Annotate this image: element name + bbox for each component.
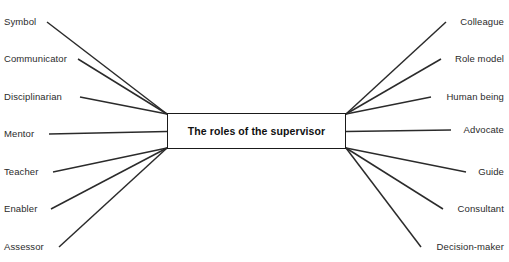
branch-label-symbol[interactable]: Symbol — [4, 16, 36, 27]
spoke-line-role-model — [346, 59, 441, 114]
branch-label-colleague[interactable]: Colleague — [460, 16, 504, 27]
spoke-line-mentor — [49, 132, 167, 135]
branch-label-decision-maker[interactable]: Decision-maker — [437, 241, 504, 252]
branch-label-advocate[interactable]: Advocate — [464, 124, 504, 135]
spoke-line-colleague — [346, 22, 446, 114]
branch-label-mentor[interactable]: Mentor — [4, 128, 34, 139]
branch-label-human-being[interactable]: Human being — [446, 91, 504, 102]
branch-label-assessor[interactable]: Assessor — [4, 241, 44, 252]
spoke-line-symbol — [47, 22, 167, 114]
center-node-box[interactable]: The roles of the supervisor — [167, 113, 346, 149]
branch-label-disciplinarian[interactable]: Disciplinarian — [4, 91, 62, 102]
mind-map-diagram: The roles of the supervisor SymbolCommun… — [0, 0, 509, 262]
right-spokes-group — [346, 22, 466, 247]
branch-label-guide[interactable]: Guide — [478, 166, 504, 177]
spoke-line-decision-maker — [346, 148, 421, 247]
spoke-line-enabler — [51, 148, 167, 209]
spoke-line-human-being — [346, 97, 431, 114]
spoke-line-teacher — [53, 148, 167, 172]
branch-label-enabler[interactable]: Enabler — [4, 203, 37, 214]
spoke-line-advocate — [346, 130, 451, 132]
branch-label-communicator[interactable]: Communicator — [4, 53, 67, 64]
branch-label-role-model[interactable]: Role model — [455, 53, 504, 64]
spoke-line-assessor — [59, 148, 167, 247]
branch-label-consultant[interactable]: Consultant — [458, 203, 504, 214]
center-node-title: The roles of the supervisor — [188, 125, 325, 137]
branch-label-teacher[interactable]: Teacher — [4, 166, 39, 177]
